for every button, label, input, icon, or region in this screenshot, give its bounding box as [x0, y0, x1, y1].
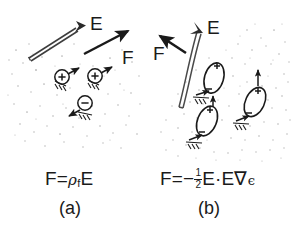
fraction-denominator: 2 [194, 180, 202, 191]
panel-b-f-label: F [153, 44, 165, 63]
panel-b-e-field-arrow [179, 22, 203, 108]
formula-b-epsilon: ϵ [248, 173, 255, 188]
panel-b-medium-speckles [160, 23, 290, 161]
panel-a-formula: F=ρfE [45, 169, 93, 189]
formula-b-field-2: E [222, 168, 235, 189]
formula-b-minus: − [183, 168, 194, 189]
panel-b-induced-dipole-2 [233, 70, 270, 130]
panel-a-f-label: F [122, 48, 134, 67]
formula-a-equals: = [57, 168, 68, 189]
formula-a-rho: ρ [68, 171, 77, 189]
formula-b-gradient: ∇ [234, 168, 247, 189]
formula-a-lhs: F [45, 168, 57, 189]
formula-b-equals: = [172, 168, 183, 189]
formula-b-lhs: F [160, 168, 172, 189]
panel-a-e-field-arrow [29, 21, 87, 61]
panel-a-medium-speckles [7, 43, 140, 148]
panel-b-induced-dipole-1 [193, 60, 227, 110]
formula-b-field-1: E [202, 168, 215, 189]
panel-a-negative-charge-1 [69, 96, 92, 120]
fraction-numerator: 1 [194, 168, 202, 180]
formula-a-field: E [80, 168, 93, 189]
panel-b-induced-dipole-3 [186, 103, 222, 149]
figure-drawing [0, 0, 293, 229]
figure-container: E F E F F=ρfE (a) F=−12E·E∇ϵ (b) [0, 0, 293, 229]
panel-a-caption-label: (a) [59, 199, 81, 217]
panel-a-positive-charge-1 [55, 68, 79, 91]
panel-b-e-label: E [207, 18, 220, 37]
panel-a-positive-charge-2 [88, 67, 112, 90]
panel-b-caption-label: (b) [198, 199, 220, 217]
panel-a-e-label: E [90, 14, 103, 33]
formula-b-fraction: 12 [194, 168, 202, 190]
panel-b-formula: F=−12E·E∇ϵ [160, 169, 255, 191]
